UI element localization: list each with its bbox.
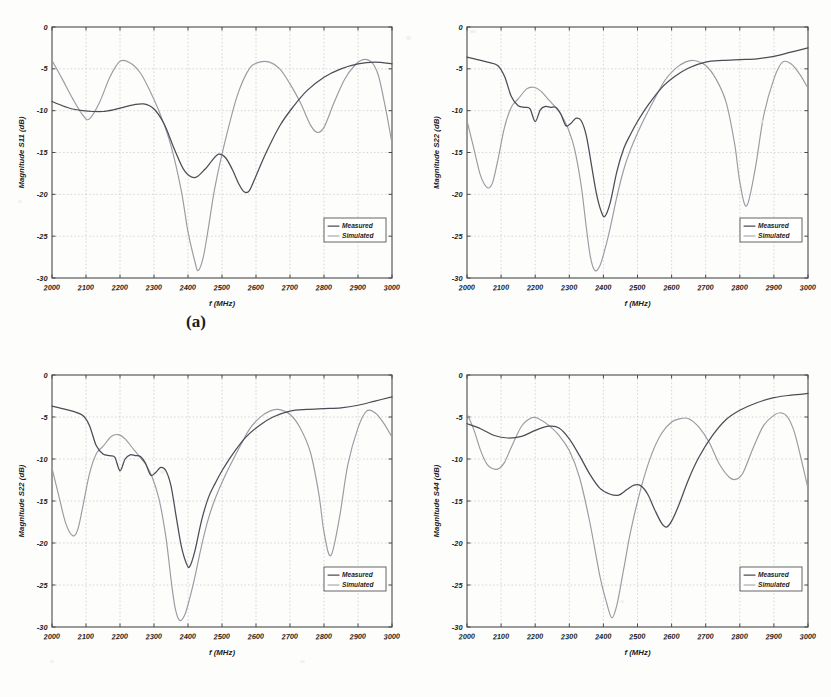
svg-text:2900: 2900: [764, 282, 783, 292]
svg-text:-10: -10: [452, 106, 464, 115]
svg-text:3000: 3000: [799, 631, 817, 641]
svg-text:2500: 2500: [628, 631, 647, 641]
svg-text:2900: 2900: [764, 631, 783, 641]
svg-text:-5: -5: [41, 413, 48, 422]
svg-text:2400: 2400: [178, 631, 197, 641]
svg-text:-5: -5: [456, 413, 463, 422]
plot-b: 2000210022002300240025002600270028002900…: [415, 0, 831, 348]
svg-text:-30: -30: [452, 274, 464, 283]
chart-legend: MeasuredSimulated: [324, 567, 386, 591]
svg-text:-20: -20: [452, 539, 464, 548]
legend-label-simulated: Simulated: [758, 232, 790, 239]
svg-text:2300: 2300: [560, 631, 579, 641]
plot-c: 2000210022002300240025002600270028002900…: [0, 348, 415, 697]
svg-text:2100: 2100: [76, 282, 95, 292]
svg-text:2100: 2100: [491, 282, 510, 292]
svg-text:3000: 3000: [799, 282, 817, 292]
svg-text:-25: -25: [37, 581, 49, 590]
figure-panel-grid: 2000210022002300240025002600270028002900…: [0, 0, 831, 697]
x-axis-title: f (MHz): [625, 648, 651, 657]
plot-a: 2000210022002300240025002600270028002900…: [0, 0, 415, 348]
svg-text:2300: 2300: [560, 282, 579, 292]
scan-artifact: [160, 470, 165, 474]
svg-text:-15: -15: [37, 148, 49, 157]
panel-c: 2000210022002300240025002600270028002900…: [0, 348, 415, 697]
svg-text:-10: -10: [37, 106, 49, 115]
svg-text:2700: 2700: [280, 631, 299, 641]
svg-text:-20: -20: [37, 539, 49, 548]
svg-text:2200: 2200: [526, 631, 545, 641]
legend-label-measured: Measured: [758, 571, 790, 578]
svg-text:-30: -30: [452, 623, 464, 632]
svg-text:2400: 2400: [178, 282, 197, 292]
svg-text:2300: 2300: [144, 282, 163, 292]
scan-artifact: [50, 660, 54, 663]
svg-text:0: 0: [43, 371, 48, 380]
x-axis-title: f (MHz): [209, 648, 235, 657]
svg-text:2800: 2800: [730, 282, 749, 292]
svg-text:-25: -25: [37, 232, 49, 241]
svg-text:0: 0: [458, 23, 463, 32]
chart-legend: MeasuredSimulated: [740, 218, 802, 242]
svg-text:2400: 2400: [594, 282, 613, 292]
legend-label-simulated: Simulated: [342, 232, 374, 239]
svg-text:3000: 3000: [383, 282, 401, 292]
svg-text:2100: 2100: [491, 631, 510, 641]
y-axis-title: Magnitude S22 (dB): [432, 116, 441, 189]
chart-legend: MeasuredSimulated: [740, 567, 802, 591]
svg-text:2700: 2700: [696, 282, 715, 292]
svg-text:2900: 2900: [348, 282, 367, 292]
svg-text:0: 0: [43, 23, 48, 32]
svg-text:2300: 2300: [144, 631, 163, 641]
legend-label-simulated: Simulated: [758, 581, 790, 588]
svg-text:2800: 2800: [314, 631, 333, 641]
chart-svg: 2000210022002300240025002600270028002900…: [0, 0, 415, 348]
chart-svg: 2000210022002300240025002600270028002900…: [0, 348, 415, 697]
chart-legend: MeasuredSimulated: [324, 218, 386, 242]
svg-text:2200: 2200: [110, 631, 129, 641]
svg-text:2700: 2700: [280, 282, 299, 292]
svg-text:-20: -20: [37, 190, 49, 199]
svg-text:2400: 2400: [594, 631, 613, 641]
svg-text:-15: -15: [452, 148, 464, 157]
svg-text:-15: -15: [37, 497, 49, 506]
plot-d: 2000210022002300240025002600270028002900…: [415, 348, 831, 697]
svg-text:-5: -5: [456, 64, 463, 73]
scan-artifact: [470, 30, 476, 33]
panel-b: 2000210022002300240025002600270028002900…: [415, 0, 831, 348]
chart-svg: 2000210022002300240025002600270028002900…: [415, 0, 831, 348]
y-axis-title: Magnitude S44 (dB): [432, 464, 441, 537]
svg-text:3000: 3000: [383, 631, 401, 641]
svg-text:0: 0: [458, 371, 463, 380]
svg-text:-10: -10: [37, 455, 49, 464]
svg-text:-5: -5: [41, 64, 48, 73]
svg-text:-25: -25: [452, 232, 464, 241]
svg-text:-30: -30: [37, 274, 49, 283]
svg-text:-20: -20: [452, 190, 464, 199]
svg-text:2900: 2900: [348, 631, 367, 641]
svg-text:2000: 2000: [457, 631, 476, 641]
scan-artifact: [406, 36, 411, 40]
chart-svg: 2000210022002300240025002600270028002900…: [415, 348, 831, 697]
y-axis-title: Magnitude S11 (dB): [17, 116, 26, 189]
svg-text:2500: 2500: [212, 631, 231, 641]
scan-artifact: [300, 660, 305, 663]
svg-text:2800: 2800: [314, 282, 333, 292]
svg-text:2600: 2600: [246, 282, 265, 292]
scan-artifact: [620, 600, 624, 603]
legend-label-measured: Measured: [342, 571, 374, 578]
svg-text:-30: -30: [37, 623, 49, 632]
panel-caption-a: (a): [186, 312, 206, 332]
panel-d: 2000210022002300240025002600270028002900…: [415, 348, 831, 697]
svg-text:-25: -25: [452, 581, 464, 590]
x-axis-title: f (MHz): [209, 299, 235, 308]
svg-text:2600: 2600: [662, 631, 681, 641]
svg-text:2500: 2500: [628, 282, 647, 292]
svg-text:2700: 2700: [696, 631, 715, 641]
legend-label-measured: Measured: [342, 222, 374, 229]
scan-artifact: [18, 200, 22, 203]
scan-artifact: [760, 120, 764, 123]
svg-text:-10: -10: [452, 455, 464, 464]
svg-text:2000: 2000: [42, 631, 61, 641]
svg-text:2200: 2200: [526, 282, 545, 292]
